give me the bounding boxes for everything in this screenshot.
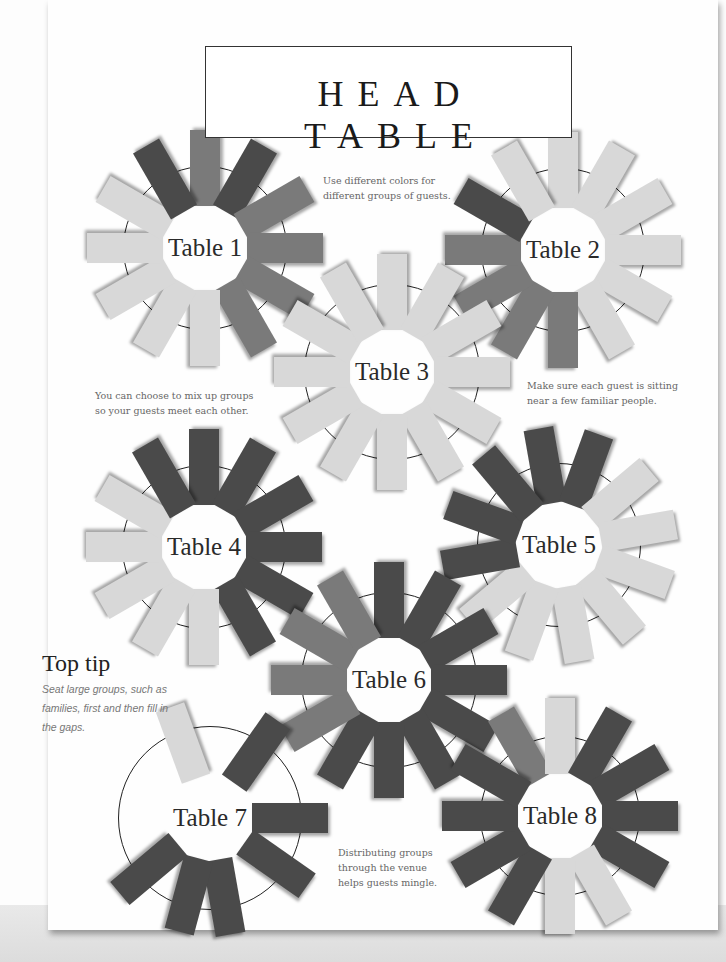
guest-place-card[interactable]: [545, 858, 575, 934]
guest-place-card[interactable]: [271, 665, 347, 695]
top-tip-body: Seat large groups, such as families, fir…: [42, 680, 172, 737]
table-label: Table 8: [523, 802, 597, 830]
guest-place-card[interactable]: [374, 722, 404, 798]
guest-place-card[interactable]: [247, 233, 323, 263]
table-label: Table 5: [522, 531, 596, 559]
note-line: Make sure each guest is sitting: [527, 378, 678, 393]
tip-note-mix: You can choose to mix up groupsso your g…: [95, 388, 253, 418]
head-table-title: HEAD TABLE: [206, 73, 571, 157]
tip-note-distribute: Distributing groupsthrough the venuehelp…: [338, 845, 437, 890]
note-line: Distributing groups: [338, 845, 437, 860]
guest-place-card[interactable]: [431, 665, 507, 695]
guest-place-card[interactable]: [189, 429, 219, 505]
guest-place-card[interactable]: [190, 290, 220, 366]
note-line: different groups of guests.: [323, 188, 451, 203]
table-label: Table 1: [168, 234, 242, 262]
tip-note-colors: Use different colors fordifferent groups…: [323, 173, 451, 203]
table-label: Table 2: [526, 236, 600, 264]
table-label: Table 4: [167, 533, 241, 561]
guest-place-card[interactable]: [274, 357, 350, 387]
table-label: Table 3: [355, 358, 429, 386]
guest-place-card[interactable]: [252, 803, 328, 833]
note-line: near a few familiar people.: [527, 393, 678, 408]
guest-place-card[interactable]: [434, 357, 510, 387]
guest-place-card[interactable]: [548, 292, 578, 368]
guest-place-card[interactable]: [86, 532, 162, 562]
table-label: Table 7: [173, 804, 247, 832]
guest-place-card[interactable]: [377, 254, 407, 330]
note-line: You can choose to mix up groups: [95, 388, 253, 403]
table-label: Table 6: [352, 666, 426, 694]
note-line: Use different colors for: [323, 173, 451, 188]
guest-place-card[interactable]: [374, 562, 404, 638]
note-line: through the venue: [338, 860, 437, 875]
guest-place-card[interactable]: [246, 532, 322, 562]
head-table-box: HEAD TABLE: [205, 46, 572, 138]
guest-place-card[interactable]: [87, 233, 163, 263]
guest-place-card[interactable]: [445, 235, 521, 265]
note-line: helps guests mingle.: [338, 875, 437, 890]
tip-note-familiar: Make sure each guest is sittingnear a fe…: [527, 378, 678, 408]
guest-place-card[interactable]: [605, 235, 681, 265]
guest-place-card[interactable]: [602, 801, 678, 831]
guest-place-card[interactable]: [545, 698, 575, 774]
note-line: so your guests meet each other.: [95, 403, 253, 418]
guest-place-card[interactable]: [189, 589, 219, 665]
guest-place-card[interactable]: [442, 801, 518, 831]
top-tip-title: Top tip: [42, 650, 110, 677]
guest-place-card[interactable]: [377, 414, 407, 490]
